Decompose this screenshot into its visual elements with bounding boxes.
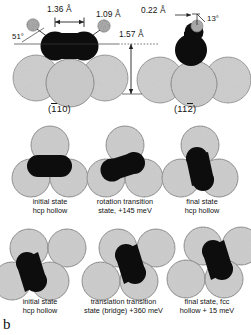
side-view-112 <box>137 13 251 107</box>
carbon-atoms-110 <box>41 32 99 61</box>
caption-translation-transition: translation transition state (bridge) +3… <box>73 297 174 316</box>
dimension-136 <box>55 18 84 28</box>
caption-rotation-final: final state hcp hollow <box>160 197 244 216</box>
label-height-157: 1.57 Å <box>119 30 144 39</box>
caption-rotation-transition: rotation transition state, +145 meV <box>82 197 168 216</box>
caption-translation-final: final state, fcc hollow + 15 meV <box>165 297 249 316</box>
topview-rotation-final <box>162 126 238 197</box>
miller-index-112: (112) <box>174 104 196 113</box>
label-tilt-angle-13: 13° <box>207 14 219 23</box>
miller-110-suffix: 10) <box>57 103 71 114</box>
figure-graphics <box>0 0 251 335</box>
topview-translation-final <box>167 227 251 298</box>
topview-translation-initial <box>0 229 86 300</box>
dimension-022 <box>175 13 191 17</box>
caption-rotation-initial: initial state hcp hollow <box>8 197 92 216</box>
miller-110-barred-digit: 1 <box>51 104 56 113</box>
miller-112-prefix: (11 <box>174 103 187 114</box>
label-ch-distance: 1.09 Å <box>96 10 121 19</box>
substrate-atoms-110 <box>13 55 128 107</box>
topview-rotation-transition <box>87 126 163 197</box>
figure-panel-b: 1.36 Å 1.09 Å 51° 1.57 Å 0.22 Å 13° (110… <box>0 0 251 335</box>
miller-index-110: (110) <box>48 104 71 113</box>
label-offset-022: 0.22 Å <box>141 6 166 15</box>
label-cc-distance: 1.36 Å <box>47 5 72 14</box>
miller-112-barred-digit: 2 <box>187 104 192 113</box>
label-tilt-angle-51: 51° <box>12 32 24 41</box>
adsorbate-rotation-initial <box>27 155 72 177</box>
caption-translation-initial: initial state hcp hollow <box>0 297 82 316</box>
topview-rotation-initial <box>12 126 88 197</box>
topview-translation-transition <box>82 229 175 300</box>
miller-112-suffix: ) <box>193 103 196 114</box>
side-view-110 <box>13 18 128 108</box>
panel-letter-b: b <box>3 317 11 332</box>
